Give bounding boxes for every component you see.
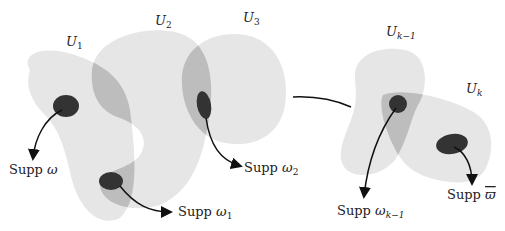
chain-connector xyxy=(293,97,351,107)
label-supp-omegabar: Supp ϖ xyxy=(447,187,496,202)
label-supp-omegakm1: Supp ωk−1 xyxy=(337,203,404,220)
label-uk: Uk xyxy=(466,81,482,98)
diagram-canvas: U1 U2 U3 Uk−1 Uk Supp ω Supp ω1 Supp ω2 … xyxy=(0,0,505,231)
support-omega1 xyxy=(99,172,123,190)
label-supp-omega2: Supp ω2 xyxy=(244,160,298,177)
label-ukm1: Uk−1 xyxy=(386,24,416,41)
label-u1: U1 xyxy=(66,34,83,51)
label-supp-omega1: Supp ω1 xyxy=(178,204,232,221)
label-supp-omega: Supp ω xyxy=(9,162,58,177)
support-omegakm1 xyxy=(389,95,407,113)
label-u3: U3 xyxy=(243,10,260,27)
label-u2: U2 xyxy=(155,13,172,30)
